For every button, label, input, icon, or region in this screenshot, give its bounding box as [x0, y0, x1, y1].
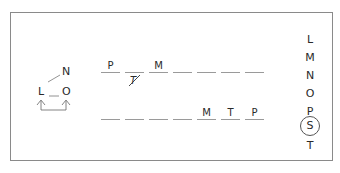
column-letter-l: L	[303, 34, 317, 46]
bottom-blank-3	[149, 107, 168, 120]
column-letter-t: T	[303, 140, 317, 152]
column-letter-m: M	[303, 52, 317, 64]
bottom-blank-6: T	[221, 107, 240, 120]
column-letter-o: O	[303, 88, 317, 100]
bottom-blank-4	[173, 107, 192, 120]
bottom-blank-7: P	[245, 107, 264, 120]
column-letter-s: S	[303, 120, 317, 132]
bottom-blank-1	[101, 107, 120, 120]
bottom-blank-5: M	[197, 107, 216, 120]
bottom-blank-2	[125, 107, 144, 120]
strike-mark	[0, 0, 340, 173]
column-letter-n: N	[303, 70, 317, 82]
